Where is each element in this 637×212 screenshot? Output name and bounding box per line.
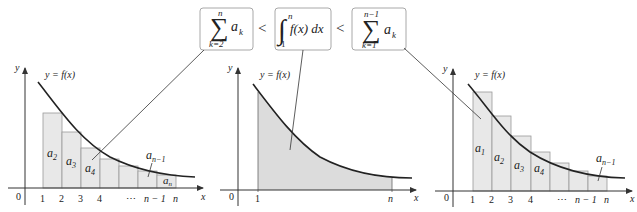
pointer-lower-sum	[92, 50, 204, 160]
y-axis-label: y	[14, 62, 20, 73]
formula-row: ∑ n k=2 a k < ∫ n 1 f(x) dx < ∑ n−1 k=1 …	[200, 8, 406, 50]
x-ticks: 1 2 3 4 ⋯ n − 1 n	[40, 193, 178, 204]
tick-n: n	[604, 194, 609, 205]
origin-label: 0	[16, 191, 21, 202]
tick-3: 3	[508, 194, 513, 205]
graph-right: y x 0 y = f(x) 1 2 3 4 ⋯ n − 1 n a1 a2 a…	[435, 63, 635, 207]
pointer-upper-sum	[404, 48, 481, 119]
tick-4: 4	[97, 193, 102, 204]
x-axis-label: x	[413, 192, 419, 203]
tick-n: n	[173, 193, 178, 204]
less-than-1: <	[258, 20, 266, 36]
label-an-1: an−1	[596, 151, 615, 167]
label-an-1: an−1	[146, 148, 165, 164]
x-axis-label: x	[200, 191, 206, 202]
curve-label: y = f(x)	[259, 69, 291, 81]
y-axis-label: y	[227, 62, 233, 73]
origin-label: 0	[444, 192, 449, 203]
integral-test-diagram: ∑ n k=2 a k < ∫ n 1 f(x) dx < ∑ n−1 k=1 …	[0, 0, 637, 212]
less-than-2: <	[336, 20, 344, 36]
tick-2: 2	[59, 193, 64, 204]
tick-4: 4	[528, 194, 533, 205]
sum1-upper: n	[218, 8, 223, 18]
integral-upper: n	[288, 11, 293, 21]
sum3-term: a	[384, 22, 391, 37]
rect-an-1	[138, 171, 157, 188]
tick-3: 3	[78, 193, 83, 204]
tick-1: 1	[40, 193, 45, 204]
tick-1: 1	[470, 194, 475, 205]
origin-label: 0	[229, 191, 234, 202]
graph-left: y x 0 y = f(x) 1 2 3 4 ⋯ n − 1 n a2 a3 a…	[8, 62, 206, 205]
integral-lower: 1	[281, 39, 286, 49]
rect-a6	[119, 166, 138, 188]
curve-label: y = f(x)	[474, 69, 506, 81]
graph-middle: y x 0 y = f(x) 1 n	[220, 62, 419, 206]
sum3-upper: n−1	[364, 9, 379, 19]
sum1-lower: k=2	[209, 39, 224, 49]
rect-an-1	[588, 176, 607, 191]
rect-a5	[100, 159, 119, 188]
tick-2: 2	[489, 194, 494, 205]
tick-1: 1	[255, 193, 260, 204]
y-axis-label: y	[442, 63, 448, 74]
integral-body: f(x) dx	[290, 21, 324, 36]
curve-label: y = f(x)	[44, 69, 76, 81]
tick-n-minus-1: n − 1	[575, 194, 597, 205]
sum1-term: a	[231, 19, 238, 34]
tick-ellipsis: ⋯	[126, 193, 136, 204]
tick-n: n	[388, 193, 393, 204]
tick-ellipsis: ⋯	[557, 194, 567, 205]
x-ticks: 1 2 3 4 ⋯ n − 1 n	[470, 194, 609, 205]
lower-sum-rectangles	[43, 113, 176, 188]
tick-n-minus-1: n − 1	[144, 193, 166, 204]
pointer-integral	[290, 50, 303, 150]
sum3-lower: k=1	[362, 40, 377, 50]
x-axis-label: x	[629, 193, 635, 204]
